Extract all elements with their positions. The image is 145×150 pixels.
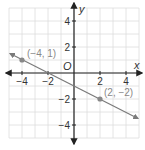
point-label: (2, −2)	[104, 87, 133, 98]
axes	[6, 3, 142, 144]
data-point	[97, 96, 102, 101]
coordinate-plane-chart: −4−22442−2−4 (−4, 1)(2, −2) x y O	[0, 0, 145, 150]
y-tick-label: 4	[64, 16, 70, 27]
y-tick-label: −2	[59, 94, 71, 105]
x-tick-label: −2	[42, 76, 54, 87]
x-axis-label: x	[133, 59, 140, 71]
x-tick-label: 2	[97, 76, 103, 87]
data-point	[19, 57, 24, 62]
x-tick-label: −4	[16, 76, 28, 87]
y-tick-label: 2	[64, 42, 70, 53]
origin-label: O	[63, 60, 72, 72]
chart-svg: −4−22442−2−4 (−4, 1)(2, −2) x y O	[0, 0, 145, 150]
x-tick-label: 4	[123, 76, 129, 87]
data-points: (−4, 1)(2, −2)	[19, 48, 133, 102]
y-axis-label: y	[78, 3, 86, 15]
y-tick-label: −4	[59, 120, 71, 131]
point-label: (−4, 1)	[27, 48, 56, 59]
